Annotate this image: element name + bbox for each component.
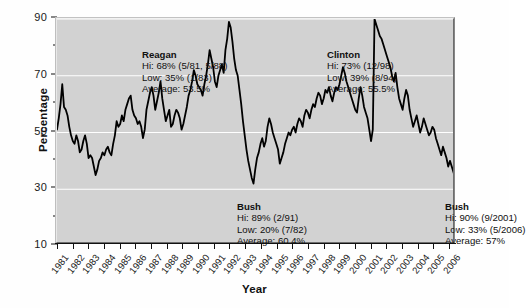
x-tick <box>449 243 450 249</box>
annotation-reagan-hi: Hi: 68% (5/81, 5/88) <box>142 60 227 71</box>
x-tick <box>198 243 199 249</box>
x-tick <box>261 243 262 249</box>
x-tick <box>57 243 58 249</box>
x-tick <box>418 243 419 249</box>
x-tick <box>73 243 74 249</box>
plot-frame: Reagan Hi: 68% (5/81, 5/88) Low: 35% (1/… <box>55 17 455 244</box>
y-tick-label: 30 <box>34 181 47 193</box>
annotation-reagan-low: Low: 35% (1/83) <box>142 72 227 83</box>
x-axis: 1981198219831984198519861987198819891990… <box>0 243 509 308</box>
x-tick <box>292 243 293 249</box>
annotation-clinton-low: Low: 39% (8/94) <box>327 72 397 83</box>
x-tick <box>151 243 152 249</box>
y-tick-label: 90 <box>34 11 47 23</box>
annotation-bush-41-low: Low: 20% (7/82) <box>237 224 307 235</box>
annotation-reagan-title: Reagan <box>142 49 227 60</box>
annotation-bush-43: Bush Hi: 90% (9/2001) Low: 33% (5/2006) … <box>445 201 526 247</box>
annotation-bush-41: Bush Hi: 89% (2/91) Low: 20% (7/82) Aver… <box>237 201 307 247</box>
x-tick <box>324 243 325 249</box>
x-tick <box>245 243 246 249</box>
x-tick <box>339 243 340 249</box>
x-tick <box>214 243 215 249</box>
x-tick <box>88 243 89 249</box>
annotation-clinton-hi: Hi: 73% (12/98) <box>327 60 397 71</box>
x-tick <box>433 243 434 249</box>
x-tick <box>371 243 372 249</box>
x-tick <box>167 243 168 249</box>
annotation-bush-41-hi: Hi: 89% (2/91) <box>237 212 307 223</box>
data-line-presidential-approval <box>57 19 453 184</box>
x-tick <box>386 243 387 249</box>
annotation-reagan-average: Average: 53.5% <box>142 83 227 94</box>
annotation-clinton: Clinton Hi: 73% (12/98) Low: 39% (8/94) … <box>327 49 397 95</box>
annotation-bush-43-title: Bush <box>445 201 526 212</box>
x-axis-title: Year <box>0 283 509 295</box>
y-tick-label: 50 <box>34 125 47 137</box>
x-tick <box>120 243 121 249</box>
y-tick-label: 70 <box>34 68 47 80</box>
annotation-bush-43-low: Low: 33% (5/2006) <box>445 224 526 235</box>
x-tick <box>229 243 230 249</box>
x-tick <box>308 243 309 249</box>
x-tick <box>277 243 278 249</box>
annotation-bush-41-title: Bush <box>237 201 307 212</box>
annotation-reagan: Reagan Hi: 68% (5/81, 5/88) Low: 35% (1/… <box>142 49 227 95</box>
x-tick <box>135 243 136 249</box>
x-tick <box>182 243 183 249</box>
annotation-clinton-title: Clinton <box>327 49 397 60</box>
x-tick <box>402 243 403 249</box>
annotation-bush-43-hi: Hi: 90% (9/2001) <box>445 212 526 223</box>
x-tick <box>104 243 105 249</box>
x-tick <box>355 243 356 249</box>
annotation-clinton-average: Average: 55.5% <box>327 83 397 94</box>
